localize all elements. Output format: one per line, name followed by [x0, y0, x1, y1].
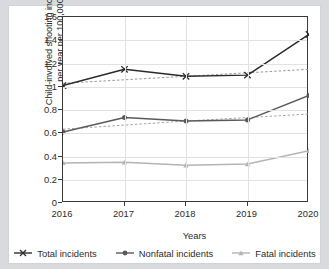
legend-label-fatal-incidents: Fatal incidents — [255, 248, 315, 259]
gridline-horizontal — [63, 180, 307, 181]
x-axis-tick-label: 2017 — [102, 208, 146, 219]
y-axis-tick-label: 0.6 — [21, 127, 57, 138]
legend-label-nonfatal-incidents: Nonfatal incidents — [139, 248, 214, 259]
legend-item-total-incidents[interactable]: Total incidents — [13, 248, 96, 259]
y-axis-tick-label: 0.8 — [21, 104, 57, 115]
x-axis-tick-label: 2020 — [286, 208, 329, 219]
x-axis-tick-label: 2018 — [163, 208, 207, 219]
gridline-horizontal — [63, 133, 307, 134]
gridline-horizontal — [63, 110, 307, 111]
gridline-vertical — [248, 17, 249, 201]
gridline-horizontal — [63, 87, 307, 88]
legend-item-nonfatal-incidents[interactable]: Nonfatal incidents — [115, 248, 214, 259]
gridline-horizontal — [63, 64, 307, 65]
marker-nonfatal-incidents — [307, 93, 310, 98]
x-axis-tick-label: 2019 — [225, 208, 269, 219]
screenshot-root: Child-involved shooting incidents per ye… — [0, 0, 329, 269]
legend-label-total-incidents: Total incidents — [37, 248, 96, 259]
marker-circle-icon — [307, 93, 310, 98]
chart-legend: Total incidentsNonfatal incidentsFatal i… — [9, 244, 320, 262]
y-axis-tick-label: 0.4 — [21, 150, 57, 161]
gridline-horizontal — [63, 40, 307, 41]
gridline-vertical — [186, 17, 187, 201]
y-axis-tick-label: 0.2 — [21, 173, 57, 184]
x-axis-tick-mark — [185, 202, 186, 206]
legend-swatch-fatal-incidents — [231, 248, 251, 258]
y-axis-tick-label: 1.4 — [21, 34, 57, 45]
x-axis-tick-label: 2016 — [40, 208, 84, 219]
plot-area — [62, 16, 308, 202]
x-axis-tick-mark — [247, 202, 248, 206]
legend-swatch-total-incidents — [13, 248, 33, 258]
y-axis-tick-labels: 00.20.40.60.811.21.41.6 — [17, 16, 57, 202]
x-axis-tick-marks — [62, 202, 308, 207]
marker-circle-icon — [122, 251, 127, 256]
marker-total-incidents — [306, 31, 309, 37]
chart-figure-card: Child-involved shooting incidents per ye… — [9, 6, 320, 263]
legend-swatch-nonfatal-incidents — [115, 248, 135, 258]
y-axis-tick-label: 0 — [21, 197, 57, 208]
x-axis-title: Years — [71, 230, 318, 241]
y-axis-tick-label: 1 — [21, 80, 57, 91]
gridline-horizontal — [63, 157, 307, 158]
x-axis-tick-mark — [124, 202, 125, 206]
y-axis-tick-label: 1.6 — [21, 11, 57, 22]
x-axis-tick-labels: 20162017201820192020 — [62, 208, 308, 224]
y-axis-tick-label: 1.2 — [21, 57, 57, 68]
legend-item-fatal-incidents[interactable]: Fatal incidents — [231, 248, 315, 259]
gridline-vertical — [125, 17, 126, 201]
